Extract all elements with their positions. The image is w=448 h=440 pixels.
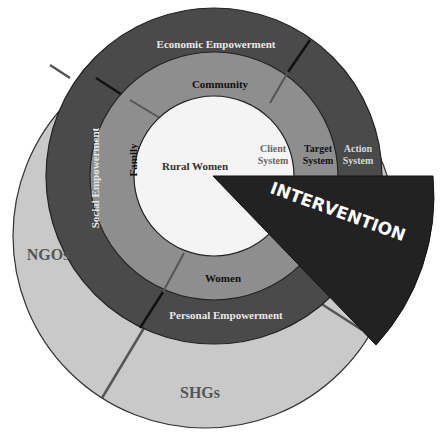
target-system-label: Target System xyxy=(303,143,334,166)
shgs-label: SHGs xyxy=(180,384,220,401)
target-line1: Target xyxy=(304,143,333,154)
social-empowerment-label: Social Empowerment xyxy=(89,127,101,228)
client-line1: Client xyxy=(260,143,287,154)
action-line2: System xyxy=(343,155,374,166)
ngos-label: NGOs xyxy=(27,246,70,263)
empowerment-intervention-diagram: Economic Empowerment Community Social Em… xyxy=(0,0,448,440)
women-label: Women xyxy=(205,272,241,284)
economic-empowerment-label: Economic Empowerment xyxy=(157,38,276,50)
target-line2: System xyxy=(303,155,334,166)
personal-empowerment-label: Personal Empowerment xyxy=(169,309,283,321)
action-line1: Action xyxy=(344,143,373,154)
client-line2: System xyxy=(258,155,289,166)
rural-women-label: Rural Women xyxy=(162,160,228,172)
client-system-label: Client System xyxy=(258,143,289,166)
community-label: Community xyxy=(192,78,249,90)
family-label: Family xyxy=(127,143,139,176)
action-system-label: Action System xyxy=(343,143,374,166)
base-divider-top xyxy=(50,65,70,78)
